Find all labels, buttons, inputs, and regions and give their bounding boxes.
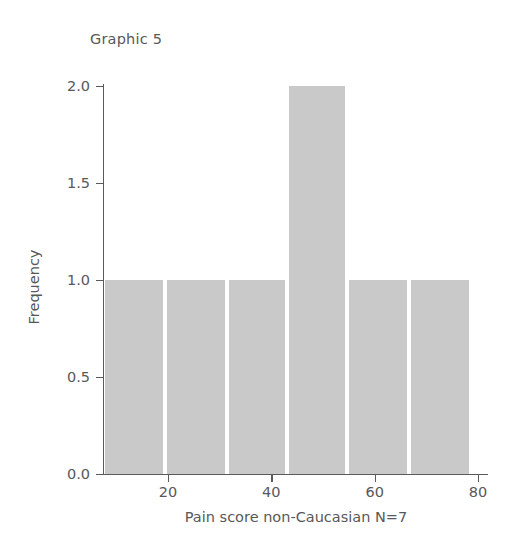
y-tick-mark (96, 183, 103, 184)
y-tick-mark (96, 280, 103, 281)
x-tick-label-60: 60 (345, 484, 405, 500)
histogram-bar (411, 280, 469, 474)
y-tick-mark (96, 86, 103, 87)
histogram-bar (229, 280, 285, 474)
y-axis-line (103, 84, 104, 475)
plot-area: 0.0 0.5 1.0 1.5 2.0 20 40 60 80 Frequenc… (0, 0, 520, 558)
x-tick-mark (478, 474, 479, 482)
x-tick-mark (375, 474, 376, 482)
x-tick-mark (168, 474, 169, 482)
x-tick-label-80: 80 (448, 484, 508, 500)
y-tick-label-text: 2.0 (30, 78, 90, 94)
histogram-bar (289, 86, 345, 474)
x-axis-line (103, 474, 488, 475)
histogram-bar (105, 280, 163, 474)
y-tick-label-text: 0.0 (30, 466, 90, 482)
histogram-bar (349, 280, 407, 474)
y-tick-mark (96, 474, 103, 475)
x-axis-title: Pain score non-Caucasian N=7 (103, 509, 489, 525)
y-tick-mark (96, 377, 103, 378)
y-tick-label-text: 0.5 (30, 369, 90, 385)
y-tick-label-text: 1.5 (30, 175, 90, 191)
x-tick-label-20: 20 (138, 484, 198, 500)
histogram-bar (167, 280, 225, 474)
x-tick-mark (271, 474, 272, 482)
x-tick-label-40: 40 (241, 484, 301, 500)
histogram-figure: Graphic 5 0.0 0.5 1.0 1.5 2.0 (0, 0, 520, 558)
y-axis-title: Frequency (26, 207, 42, 367)
